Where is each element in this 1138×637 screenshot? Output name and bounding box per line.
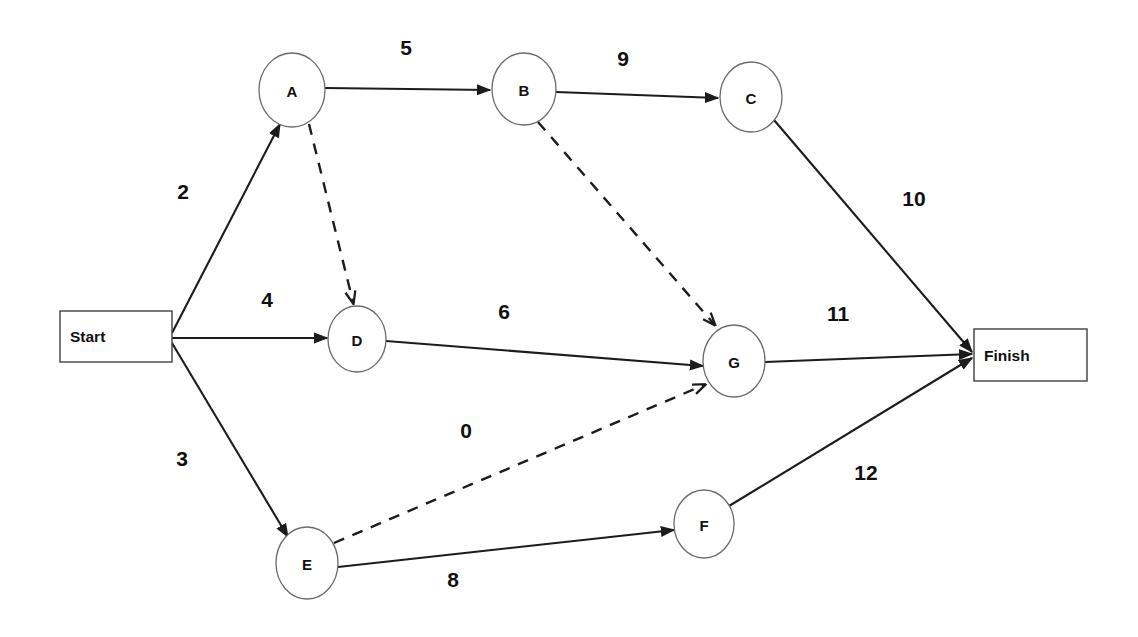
node-label-f: F (699, 517, 708, 534)
node-f[interactable]: F (674, 490, 734, 558)
edge-weight-b-c: 9 (617, 47, 629, 70)
node-e[interactable]: E (276, 527, 338, 599)
edge-f-finish (729, 358, 972, 506)
diagram-canvas: ABCDEFG StartFinish 25910461138120 (0, 0, 1138, 637)
edge-weight-e-g: 0 (460, 419, 472, 442)
terminator-finish[interactable]: Finish (974, 329, 1087, 381)
edge-a-d (309, 124, 353, 302)
nodes-layer: ABCDEFG (259, 53, 782, 599)
edge-weight-d-g: 6 (498, 300, 510, 323)
edge-a-b (325, 88, 490, 90)
edge-e-g (334, 385, 704, 543)
node-label-a: A (287, 83, 298, 100)
edge-b-c (556, 92, 718, 98)
node-a[interactable]: A (259, 53, 325, 127)
edge-g-finish (765, 354, 972, 362)
node-d[interactable]: D (328, 306, 386, 372)
edge-weight-c-finish: 10 (902, 187, 925, 210)
edge-e-f (338, 530, 674, 567)
node-label-g: G (728, 354, 740, 371)
node-label-c: C (746, 90, 757, 107)
edge-weight-g-finish: 11 (827, 302, 850, 325)
edge-b-g (538, 122, 714, 324)
terminator-label-finish: Finish (984, 347, 1030, 364)
terminator-label-start: Start (70, 328, 105, 345)
edge-start-e (172, 343, 288, 537)
node-c[interactable]: C (720, 62, 782, 132)
node-b[interactable]: B (492, 53, 556, 125)
terminator-start[interactable]: Start (60, 311, 172, 362)
edge-c-finish (774, 120, 972, 352)
edge-weight-e-f: 8 (447, 568, 459, 591)
edge-weight-start-d: 4 (261, 288, 273, 311)
node-label-b: B (519, 82, 530, 99)
node-label-d: D (352, 332, 363, 349)
edge-weight-a-b: 5 (400, 36, 412, 59)
node-label-e: E (302, 556, 312, 573)
node-g[interactable]: G (703, 325, 765, 397)
edge-d-g (386, 341, 703, 366)
network-diagram: ABCDEFG StartFinish 25910461138120 (0, 0, 1138, 637)
terminators-layer: StartFinish (60, 311, 1087, 381)
edges-layer (172, 88, 972, 567)
edge-weight-start-a: 2 (177, 180, 189, 203)
edge-weight-start-e: 3 (176, 447, 188, 470)
edge-weight-f-finish: 12 (854, 461, 877, 484)
